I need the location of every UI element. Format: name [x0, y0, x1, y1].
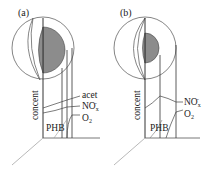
label-acet-a: acet [82, 90, 98, 100]
floc-inner-boundary [28, 18, 40, 80]
z-axis-a [12, 138, 43, 165]
shaded-core-b [145, 33, 159, 63]
y-axis-label-b: concent [132, 90, 142, 120]
label-nox-b: NOx- [184, 96, 201, 108]
label-phb-a: PHB [46, 123, 64, 133]
panel-b: (b) NOx- O2 PHB concent [114, 7, 201, 165]
z-axis-b [114, 138, 145, 165]
curve-o2-a [67, 115, 80, 138]
panel-b-label: (b) [120, 7, 132, 19]
label-nox-a: NOx- [82, 100, 99, 112]
curve-o2-b [166, 110, 183, 138]
panel-a-label: (a) [18, 7, 29, 19]
diagram-canvas: (a) acet NOx- O2 PHB concent (b) [0, 0, 217, 175]
label-o2-b: O2 [184, 109, 194, 120]
label-o2-a: O2 [82, 113, 92, 124]
y-axis-label-a: concent [30, 90, 40, 120]
curve-nox-b [145, 96, 183, 108]
curve-nox-a [43, 106, 80, 113]
shaded-core-left [39, 27, 44, 73]
label-phb-b: PHB [150, 123, 168, 133]
panel-a: (a) acet NOx- O2 PHB concent [12, 7, 100, 165]
shaded-core [43, 27, 65, 73]
